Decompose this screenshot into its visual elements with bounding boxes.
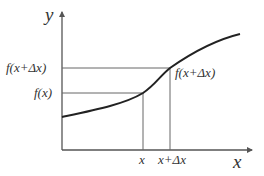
point-label-f-x-dx: f(x+Δx) — [175, 66, 215, 79]
y-axis-label: y — [45, 5, 53, 24]
x-tick-x-dx: x+Δx — [158, 153, 186, 166]
x-axis-label: x — [233, 152, 241, 171]
y-tick-f-x-dx: f(x+Δx) — [6, 61, 46, 74]
y-tick-f-x: f(x) — [34, 86, 52, 99]
x-tick-x: x — [139, 153, 145, 166]
